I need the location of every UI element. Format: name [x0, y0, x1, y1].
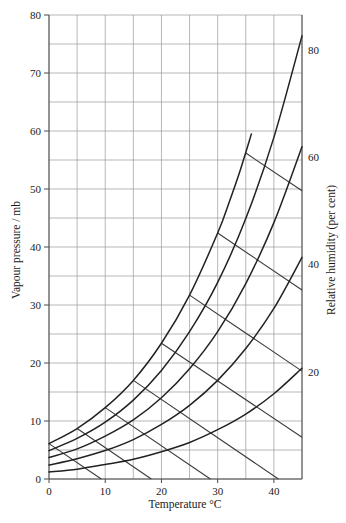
rh-end-label-20: 20	[308, 366, 320, 378]
y-tick-label: 70	[30, 67, 42, 79]
y-tick-label: 0	[36, 473, 42, 485]
y-tick-label: 20	[30, 357, 42, 369]
x-tick-label: 0	[46, 485, 52, 497]
tick-marks-layer	[44, 15, 274, 483]
y-axis-title-right: Relative humidity (per cent)	[325, 185, 338, 315]
y-axis-title-left: Vapour pressure / mb	[10, 201, 23, 299]
wet-bulb-lines-layer	[49, 153, 302, 479]
wet-bulb-line	[105, 408, 210, 479]
rh-end-label-60: 60	[308, 151, 320, 163]
y-tick-label: 50	[30, 183, 42, 195]
x-tick-label: 40	[268, 485, 280, 497]
rh-curves-layer	[49, 36, 302, 472]
rh-curve-80	[49, 36, 302, 451]
y-tick-label: 60	[30, 125, 42, 137]
x-tick-label: 20	[156, 485, 168, 497]
rh-curve-60	[49, 147, 302, 458]
wet-bulb-line	[133, 380, 278, 479]
chart-canvas: 01020304050607080010203040 80604020 Vapo…	[0, 0, 346, 523]
y-tick-label: 40	[30, 241, 42, 253]
rh-end-label-40: 40	[308, 258, 320, 270]
rh-curve-100	[49, 134, 251, 444]
y-tick-label: 10	[30, 415, 42, 427]
x-axis-title: Temperature °C	[148, 498, 221, 511]
hygrometric-chart: 01020304050607080010203040 80604020 Vapo…	[0, 0, 346, 523]
y-tick-label: 30	[30, 299, 42, 311]
x-tick-label: 10	[100, 485, 112, 497]
rh-end-label-80: 80	[308, 44, 320, 56]
rh-end-labels-layer: 80604020	[308, 44, 320, 378]
tick-labels-layer: 01020304050607080010203040	[30, 9, 280, 497]
x-tick-label: 30	[212, 485, 224, 497]
y-tick-label: 80	[30, 9, 42, 21]
